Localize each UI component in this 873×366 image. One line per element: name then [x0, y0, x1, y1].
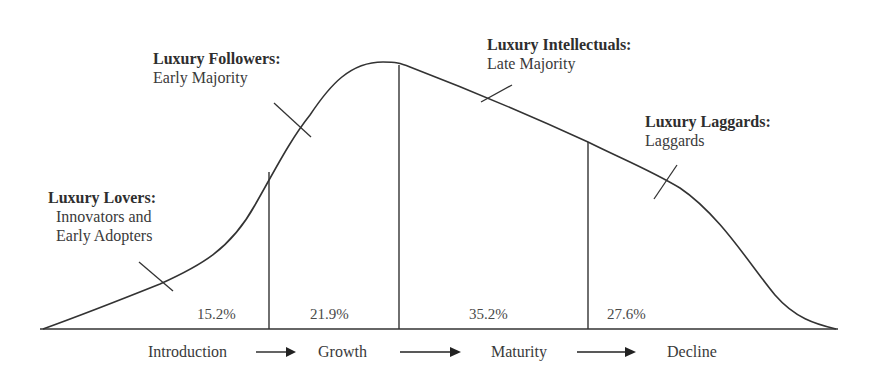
segment-subtitle: Innovators and: [48, 208, 152, 225]
stage-maturity: Maturity: [491, 343, 547, 361]
label-luxury-lovers: Luxury Lovers: Innovators and Early Adop…: [48, 188, 156, 245]
share-4: 27.6%: [607, 306, 646, 323]
segment-title: Luxury Lovers:: [48, 189, 156, 206]
segment-title: Luxury Laggards:: [645, 113, 771, 130]
stage-growth: Growth: [318, 343, 367, 361]
share-3: 35.2%: [469, 306, 508, 323]
stage-decline: Decline: [667, 343, 717, 361]
label-luxury-laggards: Luxury Laggards: Laggards: [645, 112, 771, 150]
segment-subtitle: Early Majority: [153, 69, 248, 86]
pointer-lovers: [139, 262, 173, 291]
pointer-laggards: [654, 165, 677, 199]
segment-title: Luxury Intellectuals:: [487, 36, 631, 53]
segment-subtitle: Early Adopters: [48, 227, 152, 244]
share-2: 21.9%: [310, 306, 349, 323]
arrowhead-icon: [625, 347, 636, 357]
arrowhead-icon: [450, 347, 461, 357]
label-luxury-intellectuals: Luxury Intellectuals: Late Majority: [487, 35, 631, 73]
adoption-curve: [43, 62, 836, 329]
segment-subtitle: Laggards: [645, 132, 705, 149]
label-luxury-followers: Luxury Followers: Early Majority: [153, 49, 281, 87]
share-1: 15.2%: [197, 306, 236, 323]
segment-title: Luxury Followers:: [153, 50, 281, 67]
segment-subtitle: Late Majority: [487, 55, 575, 72]
stage-introduction: Introduction: [148, 343, 227, 361]
arrowhead-icon: [286, 347, 296, 357]
lifecycle-curve-diagram: [0, 0, 873, 366]
pointer-intellectuals: [481, 85, 512, 102]
